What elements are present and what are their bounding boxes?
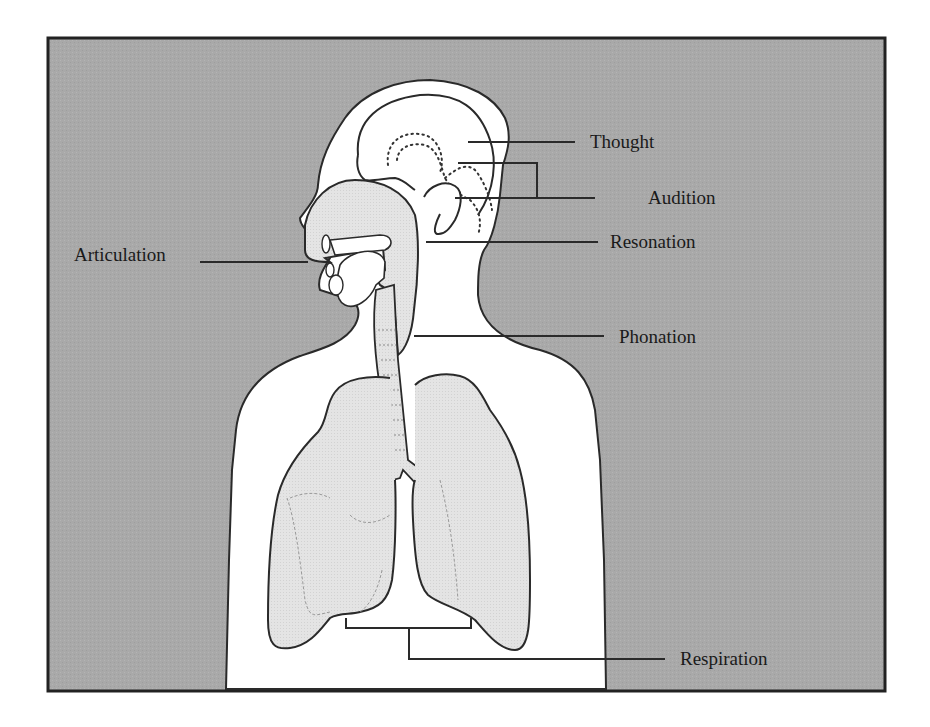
lower-lip xyxy=(329,275,343,295)
label-phonation: Phonation xyxy=(619,326,697,347)
diagram-canvas: Thought Audition Resonation Articulation… xyxy=(0,0,930,727)
lower-teeth xyxy=(326,263,334,277)
label-audition: Audition xyxy=(648,187,716,208)
label-articulation: Articulation xyxy=(74,244,166,265)
label-respiration: Respiration xyxy=(680,648,768,669)
speech-system-diagram: Thought Audition Resonation Articulation… xyxy=(0,0,930,727)
label-resonation: Resonation xyxy=(610,231,696,252)
label-thought: Thought xyxy=(590,131,655,152)
upper-teeth xyxy=(322,235,330,253)
